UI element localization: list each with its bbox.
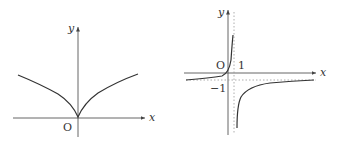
left-origin-label: O xyxy=(63,121,72,134)
right-x-label: x xyxy=(320,66,327,79)
right-graph: y x O 1 −1 xyxy=(184,6,327,135)
left-y-label: y xyxy=(67,22,75,35)
right-origin-label: O xyxy=(216,59,225,72)
vertical-asymptote-label: 1 xyxy=(238,59,245,72)
right-y-label: y xyxy=(217,6,225,19)
horizontal-asymptote-label: −1 xyxy=(210,82,226,95)
right-curve-right-branch xyxy=(237,80,314,128)
diagram-canvas: y x O y x O 1 −1 xyxy=(0,0,338,143)
left-graph: y x O xyxy=(13,22,156,137)
left-x-label: x xyxy=(149,111,156,124)
